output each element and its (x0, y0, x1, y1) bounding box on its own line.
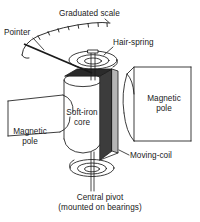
label-moving-coil: Moving-coil (130, 151, 172, 161)
pointer (24, 44, 92, 73)
label-graduated-scale: Graduated scale (59, 9, 120, 19)
label-magnetic-pole-left-line2: pole (5, 137, 55, 147)
label-pointer: Pointer (4, 28, 30, 38)
label-hair-spring: Hair-spring (113, 38, 154, 48)
label-soft-iron-core-line2: core (61, 118, 103, 128)
label-central-pivot: Central pivot (50, 193, 150, 203)
label-magnetic-pole-right-line1: Magnetic (139, 94, 189, 104)
label-soft-iron-core-line1: Soft-iron (61, 108, 103, 118)
central-pivot (70, 160, 115, 177)
label-magnetic-pole-right-line2: pole (139, 104, 189, 114)
figure-canvas: Graduated scale Pointer Hair-spring Magn… (0, 0, 200, 222)
label-magnetic-pole-left-line1: Magnetic (5, 127, 55, 137)
label-central-pivot-sub: (mounted on bearings) (37, 203, 163, 213)
